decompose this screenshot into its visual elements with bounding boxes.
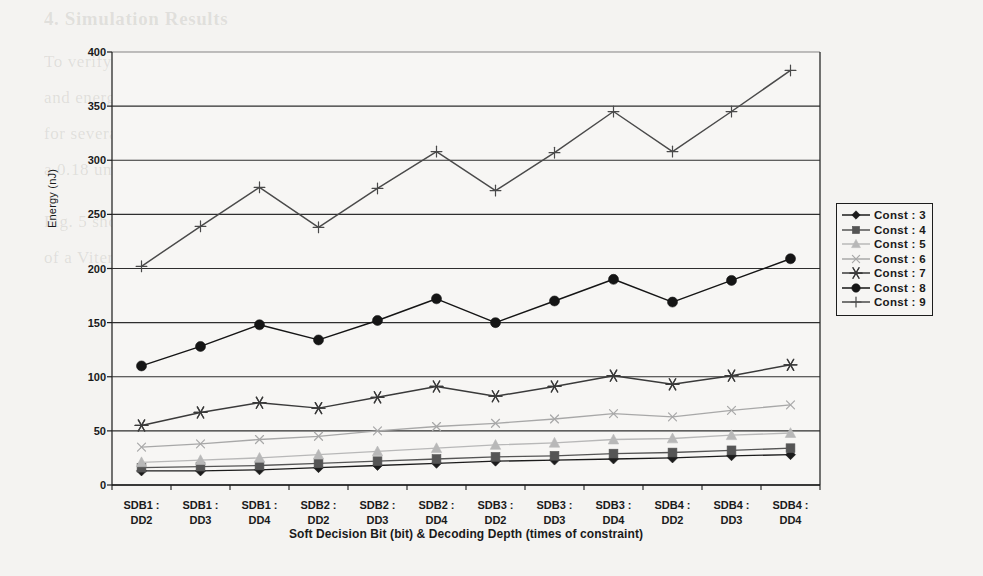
chart-figure: Energy (nJ) 400350300250200150100500 SDB…	[0, 0, 983, 576]
x-tick-label-line: SDB3 :	[536, 498, 572, 513]
x-tick-label-line: SDB1 :	[241, 498, 277, 513]
x-tick-label: SDB4 :DD4	[772, 498, 808, 528]
y-axis-title: Energy (nJ)	[46, 108, 58, 228]
x-axis-title: Soft Decision Bit (bit) & Decoding Depth…	[112, 527, 820, 541]
x-tick-label: SDB3 :DD2	[477, 498, 513, 528]
legend-marker-icon	[841, 223, 871, 237]
legend-marker-icon	[841, 266, 871, 280]
legend-marker-icon	[841, 281, 871, 295]
x-tick-label-line: SDB1 :	[182, 498, 218, 513]
x-tick-label-line: DD4	[241, 513, 277, 528]
x-tick-label-line: DD2	[654, 513, 690, 528]
x-tick-label-line: DD3	[182, 513, 218, 528]
x-tick-label-line: SDB4 :	[772, 498, 808, 513]
x-tick-label-line: SDB3 :	[595, 498, 631, 513]
legend-item-label: Const : 8	[874, 282, 926, 294]
legend-item[interactable]: Const : 3	[841, 208, 926, 223]
legend-item-label: Const : 6	[874, 253, 926, 265]
x-tick-label-line: DD4	[595, 513, 631, 528]
legend-marker-icon	[841, 295, 871, 309]
y-tick-label: 200	[60, 263, 106, 275]
y-tick-label: 400	[60, 46, 106, 58]
y-tick-label: 100	[60, 371, 106, 383]
x-tick-label: SDB1 :DD3	[182, 498, 218, 528]
x-tick-label-line: DD3	[536, 513, 572, 528]
x-tick-label-line: SDB2 :	[300, 498, 336, 513]
legend-item-label: Const : 5	[874, 238, 926, 250]
chart-legend: Const : 3Const : 4Const : 5Const : 6Cons…	[836, 203, 933, 316]
x-tick-label-line: SDB4 :	[654, 498, 690, 513]
x-tick-label: SDB1 :DD4	[241, 498, 277, 528]
y-axis-tick-labels: 400350300250200150100500	[58, 0, 106, 576]
x-tick-label-line: DD3	[713, 513, 749, 528]
y-tick-label: 50	[60, 425, 106, 437]
x-tick-label-line: SDB2 :	[359, 498, 395, 513]
y-tick-label: 250	[60, 208, 106, 220]
legend-marker-icon	[841, 208, 871, 222]
x-tick-label-line: SDB1 :	[123, 498, 159, 513]
legend-item-label: Const : 7	[874, 267, 926, 279]
x-tick-label-line: DD4	[418, 513, 454, 528]
y-tick-label: 350	[60, 100, 106, 112]
y-tick-label: 0	[60, 479, 106, 491]
legend-item-label: Const : 9	[874, 296, 926, 308]
legend-item[interactable]: Const : 7	[841, 266, 926, 281]
x-tick-label-line: DD4	[772, 513, 808, 528]
legend-item[interactable]: Const : 6	[841, 252, 926, 267]
x-tick-label-line: DD2	[300, 513, 336, 528]
x-tick-label-line: SDB2 :	[418, 498, 454, 513]
x-tick-label: SDB4 :DD3	[713, 498, 749, 528]
x-tick-label-line: DD2	[123, 513, 159, 528]
x-tick-label: SDB1 :DD2	[123, 498, 159, 528]
legend-marker-icon	[841, 252, 871, 266]
legend-item-label: Const : 3	[874, 209, 926, 221]
y-tick-label: 300	[60, 154, 106, 166]
x-tick-label: SDB4 :DD2	[654, 498, 690, 528]
x-tick-label: SDB3 :DD4	[595, 498, 631, 528]
x-tick-label-line: DD3	[359, 513, 395, 528]
x-tick-label: SDB2 :DD2	[300, 498, 336, 528]
x-tick-label: SDB2 :DD4	[418, 498, 454, 528]
legend-item[interactable]: Const : 5	[841, 237, 926, 252]
x-tick-label-line: SDB4 :	[713, 498, 749, 513]
legend-item[interactable]: Const : 9	[841, 295, 926, 310]
legend-item[interactable]: Const : 8	[841, 281, 926, 296]
x-tick-label: SDB2 :DD3	[359, 498, 395, 528]
x-tick-label: SDB3 :DD3	[536, 498, 572, 528]
x-tick-label-line: DD2	[477, 513, 513, 528]
x-tick-label-line: SDB3 :	[477, 498, 513, 513]
y-tick-label: 150	[60, 317, 106, 329]
legend-item[interactable]: Const : 4	[841, 223, 926, 238]
legend-item-label: Const : 4	[874, 224, 926, 236]
legend-marker-icon	[841, 237, 871, 251]
